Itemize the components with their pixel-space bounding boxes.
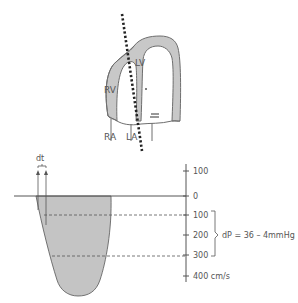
dt-label: dt	[36, 154, 44, 163]
velocity-axis: 100 0 100 200 300 400 cm/s dP = 36 – 4mm…	[183, 164, 295, 282]
heart-wall	[106, 36, 181, 121]
tick-label-100: 100	[193, 211, 208, 220]
pressure-gradient-annotation: dP = 36 – 4mmHg	[222, 231, 295, 240]
tick-label-400: 400 cm/s	[193, 272, 230, 281]
diagram-canvas: LV RV RA LA dt 100 0 100 200 300	[0, 0, 298, 303]
dp-bracket	[211, 211, 218, 256]
valve-plane	[108, 116, 180, 125]
label-rv: RV	[104, 85, 117, 95]
doppler-trace: dt	[14, 154, 186, 296]
label-la: LA	[126, 132, 138, 142]
lv-wall-mark	[145, 88, 147, 90]
heart-diagram: LV RV RA LA	[104, 14, 181, 151]
tick-label-300: 300	[193, 251, 208, 260]
label-ra: RA	[104, 132, 117, 142]
velocity-envelope	[36, 196, 111, 296]
dt-arrow-2	[44, 170, 48, 175]
dt-arrow-1	[36, 170, 40, 175]
tick-label-0: 0	[193, 192, 198, 201]
tick-label-100-up: 100	[193, 167, 208, 176]
tick-label-200: 200	[193, 231, 208, 240]
dt-bracket	[38, 166, 46, 168]
label-lv: LV	[135, 58, 146, 68]
